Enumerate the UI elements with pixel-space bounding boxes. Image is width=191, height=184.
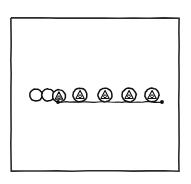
figure-canvas: Row of circles connected by a baseline — [0, 0, 191, 184]
hand-drawn-figure — [0, 0, 191, 184]
left-endpoint-dot — [56, 100, 60, 104]
node-6 — [122, 88, 136, 102]
right-endpoint-dot — [160, 100, 164, 104]
node-4 — [73, 88, 87, 102]
node-1 — [30, 89, 43, 101]
node-5 — [98, 88, 112, 102]
node-3 — [53, 90, 66, 103]
circle-1-outline — [30, 89, 43, 101]
node-7 — [145, 88, 159, 102]
